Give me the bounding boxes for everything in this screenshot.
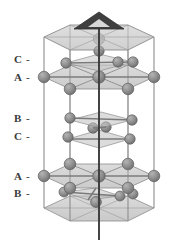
layer-label-dash: - [26, 171, 30, 182]
layer-label-a-lower: A- [14, 171, 30, 182]
layer-label-b-middle: B- [14, 113, 30, 124]
layer-label-letter: A [14, 171, 23, 182]
layer-label-dash: - [26, 54, 30, 65]
layer-label-letter: B [14, 188, 23, 199]
atom-layer-b-middle [65, 112, 137, 128]
layer-label-dash: - [26, 131, 30, 142]
layer-label-a-upper: A- [14, 72, 30, 83]
layer-label-c-top: C- [14, 54, 30, 65]
layer-label-letter: A [14, 72, 23, 83]
layer-label-dash: - [26, 72, 30, 83]
layer-label-dash: - [26, 113, 30, 124]
layer-label-letter: B [14, 113, 23, 124]
crystal-structure-figure: C- A- B- C- A- B- [0, 0, 176, 244]
layer-label-dash: - [26, 188, 30, 199]
layer-label-letter: C [14, 54, 23, 65]
layer-label-b-bottom: B- [14, 188, 30, 199]
layer-label-letter: C [14, 131, 23, 142]
layer-label-c-middle: C- [14, 131, 30, 142]
